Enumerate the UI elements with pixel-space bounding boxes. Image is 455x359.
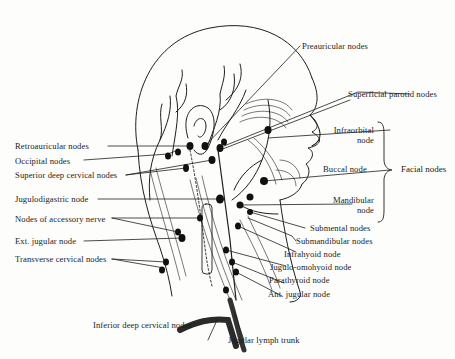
label-ext-jugular-node: Ext. jugular node <box>15 236 76 246</box>
label-occipital-nodes: Occipital nodes <box>15 156 70 166</box>
lymph-nodes <box>159 126 272 294</box>
label-jugulo-omohyoid-node: Jugulo-omohyoid node <box>270 262 352 272</box>
label-superficial-parotid-nodes: Superficial parotid nodes <box>348 89 437 99</box>
label-ant-jugular-node: Ant. jugular node <box>268 289 330 299</box>
face-profile <box>280 78 320 200</box>
label-mandibular-line1: Mandibular <box>320 195 374 205</box>
label-superior-deep-cervical-nodes: Superior deep cervical nodes <box>15 170 117 180</box>
label-buccal-node: Buccal node <box>323 164 367 174</box>
label-parathyroid-node: Parathyroid node <box>269 275 330 285</box>
label-nodes-of-accessory-nerve: Nodes of accessory nerve <box>15 214 105 224</box>
label-preauricular-nodes: Preauricular nodes <box>302 41 368 51</box>
facial-nodes-brace <box>378 122 392 222</box>
label-infrahyoid-node: Infrahyoid node <box>284 249 341 259</box>
label-facial-nodes-group: Facial nodes <box>401 164 446 174</box>
label-infraorbital-node: Infraorbital node <box>330 125 374 145</box>
label-mandibular-node: Mandibular node <box>320 195 374 215</box>
label-inferior-deep-cervical-nodes: Inferior deep cervical nodes <box>93 320 192 330</box>
label-retroauricular-nodes: Retroauricular nodes <box>15 141 89 151</box>
label-jugular-lymph-trunk: Jugular lymph trunk <box>228 335 300 345</box>
label-submental-nodes: Submental nodes <box>310 223 370 233</box>
label-infraorbital-line2: node <box>330 135 374 145</box>
label-mandibular-line2: node <box>320 205 374 215</box>
diagram-canvas: Preauricular nodes Superficial parotid n… <box>0 0 455 359</box>
label-submandibular-nodes: Submandibular nodes <box>296 236 373 246</box>
skull-outline <box>136 26 312 150</box>
label-transverse-cervical-nodes: Transverse cervical nodes <box>15 254 106 264</box>
label-jugulodigastric-node: Jugulodigastric node <box>15 194 88 204</box>
label-infraorbital-line1: Infraorbital <box>330 125 374 135</box>
